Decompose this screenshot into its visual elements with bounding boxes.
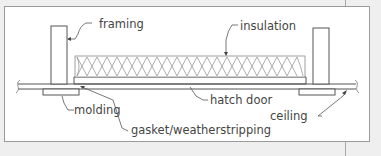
- leader-molding: [62, 96, 74, 110]
- ceiling: [18, 84, 356, 89]
- leader-ceiling: [318, 92, 346, 116]
- label-gasket-weatherstripping: gasket/weatherstripping: [131, 123, 271, 137]
- arrowhead-framing-icon: [67, 37, 71, 41]
- arrowhead-insulation-icon: [224, 52, 228, 56]
- break-mark-right-icon: [355, 80, 359, 93]
- label-hatch-door: hatch door: [210, 93, 272, 107]
- label-framing: framing: [99, 17, 144, 31]
- label-insulation: insulation: [240, 19, 296, 33]
- break-mark-left-icon: [16, 80, 20, 93]
- molding-left: [43, 89, 79, 95]
- label-molding: molding: [74, 103, 121, 117]
- framing-right: [313, 28, 329, 84]
- hatch-diagram: framing insulation molding gasket/weathe…: [0, 0, 381, 156]
- leader-insulation: [226, 25, 238, 55]
- molding-right: [299, 89, 335, 95]
- framing-left: [51, 26, 67, 84]
- leader-framing: [68, 23, 92, 39]
- label-ceiling: ceiling: [270, 109, 308, 123]
- insulation: [75, 56, 305, 77]
- arrowhead-ceiling-icon: [342, 90, 347, 95]
- hatch-door: [74, 77, 306, 84]
